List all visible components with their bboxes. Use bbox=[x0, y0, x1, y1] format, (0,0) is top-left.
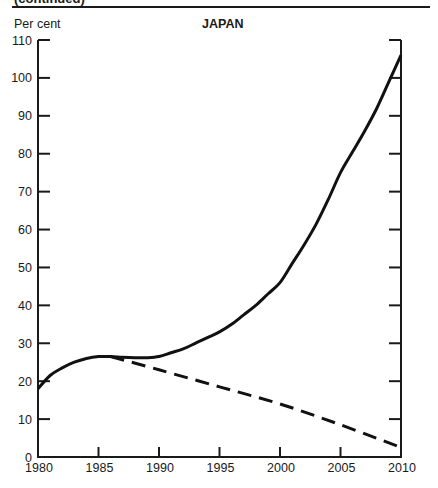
x-tick-label: 1995 bbox=[207, 461, 235, 475]
y-tick-label: 40 bbox=[18, 299, 32, 313]
y-tick-label: 70 bbox=[18, 185, 32, 199]
x-tick-label: 1990 bbox=[146, 461, 174, 475]
series-solid-line bbox=[38, 55, 401, 389]
x-tick-label: 2005 bbox=[328, 461, 356, 475]
line-chart: 0102030405060708090100110198019851990199… bbox=[0, 0, 438, 488]
y-tick-label: 20 bbox=[18, 375, 32, 389]
chart-series bbox=[38, 55, 401, 447]
x-tick-label: 2010 bbox=[388, 461, 416, 475]
chart-axes bbox=[37, 40, 402, 457]
y-tick-label: 110 bbox=[12, 34, 32, 48]
series-dashed-line bbox=[111, 357, 401, 448]
y-tick-label: 30 bbox=[18, 337, 32, 351]
x-tick-label: 2000 bbox=[267, 461, 295, 475]
y-tick-label: 60 bbox=[18, 223, 32, 237]
y-tick-label: 100 bbox=[11, 71, 32, 85]
y-tick-label: 50 bbox=[18, 261, 32, 275]
x-tick-label: 1985 bbox=[86, 461, 114, 475]
x-tick-label: 1980 bbox=[25, 461, 53, 475]
y-tick-label: 10 bbox=[18, 413, 32, 427]
y-tick-label: 80 bbox=[18, 147, 32, 161]
axis-ticks: 0102030405060708090100110198019851990199… bbox=[11, 34, 416, 476]
y-tick-label: 90 bbox=[18, 109, 32, 123]
